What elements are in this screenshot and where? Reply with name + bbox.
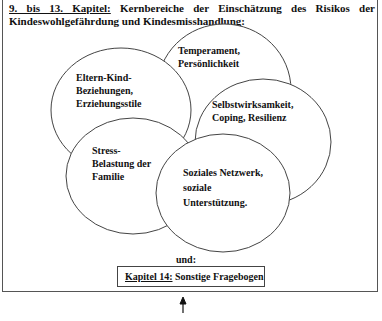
footer-box: Kapitel 14: Sonstige Fragebogen xyxy=(117,266,265,287)
label-line: Eltern-Kind- xyxy=(76,71,142,84)
label-line: Soziales Netzwerk, xyxy=(183,165,263,180)
label-line: Beziehungen, xyxy=(76,84,142,97)
footer-chapter-ref: Kapitel 14: xyxy=(125,271,173,282)
circle-label-temperament: Temperament, Persönlichkeit xyxy=(178,44,240,70)
footer-text: Sonstige Fragebogen xyxy=(173,271,264,282)
label-line: soziale xyxy=(183,180,263,195)
label-line: Coping, Resilienz xyxy=(212,111,293,124)
connector-text: und: xyxy=(176,254,196,265)
label-line: Persönlichkeit xyxy=(178,57,240,70)
circle-label-selbstwirksamkeit: Selbstwirksamkeit, Coping, Resilienz xyxy=(212,98,293,124)
label-line: Familie xyxy=(92,170,151,183)
label-line: Erziehungsstile xyxy=(76,97,142,110)
label-line: Selbstwirksamkeit, xyxy=(212,98,293,111)
label-line: Stress- xyxy=(92,144,151,157)
circle-label-soziales-netzwerk: Soziales Netzwerk, soziale Unterstützung… xyxy=(183,165,263,210)
label-line: Temperament, xyxy=(178,44,240,57)
label-line: Belastung der xyxy=(92,157,151,170)
circle-label-eltern-kind: Eltern-Kind- Beziehungen, Erziehungsstil… xyxy=(76,71,142,110)
label-line: Unterstützung. xyxy=(183,195,263,210)
up-arrow-icon xyxy=(180,297,186,313)
circle-label-stress: Stress- Belastung der Familie xyxy=(92,144,151,183)
